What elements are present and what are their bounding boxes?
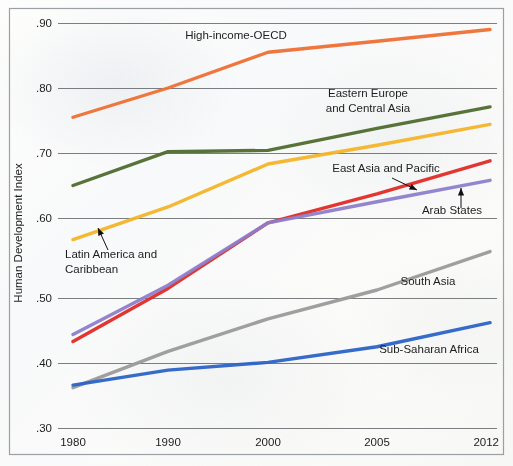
series-label: High-income-OECD — [185, 29, 287, 41]
chart-figure: .90.80.70.60.50.40.30 Human Development … — [0, 0, 513, 466]
annotation-arrowhead — [458, 188, 464, 196]
x-tick-label: 2012 — [473, 436, 499, 448]
y-tick-label: .50 — [36, 292, 52, 304]
series-line — [73, 252, 490, 388]
series-line — [73, 124, 490, 239]
y-tick-label: .80 — [36, 82, 52, 94]
x-tick-label-group: 19801990200020052012 — [60, 436, 499, 448]
series-label: Sub-Saharan Africa — [379, 343, 479, 355]
x-tick-label: 1980 — [60, 436, 86, 448]
x-tick-label: 2005 — [364, 436, 390, 448]
series-label: South Asia — [401, 275, 457, 287]
annotation-arrow-group — [98, 178, 464, 250]
chart-svg: .90.80.70.60.50.40.30 Human Development … — [0, 0, 513, 466]
y-axis-title: Human Development Index — [12, 163, 24, 303]
y-tick-label: .40 — [36, 357, 52, 369]
y-tick-label: .70 — [36, 147, 52, 159]
series-label: Eastern Europeand Central Asia — [326, 87, 411, 114]
y-tick-label: .90 — [36, 17, 52, 29]
series-label: Latin America andCaribbean — [65, 248, 157, 275]
series-line — [73, 30, 490, 118]
y-tick-label: .60 — [36, 212, 52, 224]
x-tick-label: 1990 — [155, 436, 181, 448]
x-tick-label: 2000 — [255, 436, 281, 448]
y-tick-label: .30 — [36, 422, 52, 434]
series-label: East Asia and Pacific — [332, 162, 440, 174]
series-label: Arab States — [422, 204, 482, 216]
y-tick-label-group: .90.80.70.60.50.40.30 — [36, 17, 52, 434]
